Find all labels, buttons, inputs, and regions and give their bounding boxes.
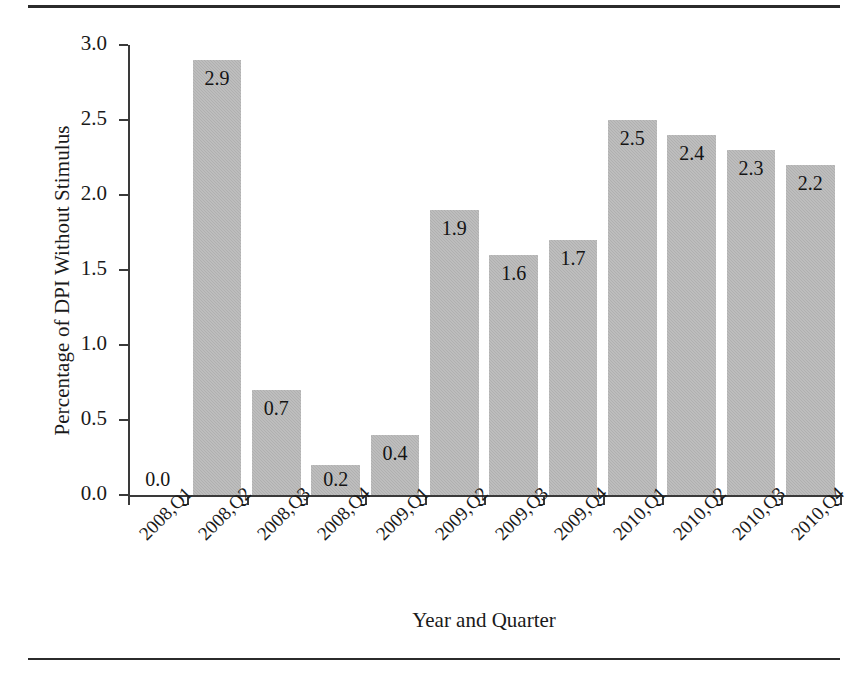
bar-value-label: 1.7 [543,247,602,270]
x-axis-tick-label-slot: 2008,Q3 [247,500,306,590]
bar[interactable] [608,120,657,495]
bar-value-label: 2.4 [662,142,721,165]
figure-page: Percentage of DPI Without Stimulus 0.00.… [0,0,867,679]
x-axis-tick-label-slot: 2009,Q4 [543,500,602,590]
y-axis-tick-label: 0.0 [81,481,107,506]
bar-item[interactable]: 2.9 [187,45,246,495]
bar-item[interactable]: 0.2 [306,45,365,495]
y-axis-title: Percentage of DPI Without Stimulus [50,51,75,511]
bar-item[interactable]: 2.3 [721,45,780,495]
bar[interactable] [549,240,598,495]
x-axis-tick-label-slot: 2008,Q2 [187,500,246,590]
bar-item[interactable]: 0.4 [365,45,424,495]
x-axis-tick-label-slot: 2008,Q4 [306,500,365,590]
bar-value-label: 2.5 [603,127,662,150]
x-axis-tick-label-slot: 2009,Q2 [425,500,484,590]
bar-value-label: 2.2 [781,172,840,195]
bar-item[interactable]: 0.0 [128,45,187,495]
x-axis-tick-labels: 2008,Q12008,Q22008,Q32008,Q42009,Q12009,… [128,500,840,590]
bar-value-label: 2.3 [721,157,780,180]
y-axis-tick-label: 2.5 [81,106,107,131]
y-axis-tick-label: 1.5 [81,256,107,281]
y-axis-tick-label: 3.0 [81,31,107,56]
bar-item[interactable]: 1.9 [425,45,484,495]
x-axis-tick-label-slot: 2008,Q1 [128,500,187,590]
bar-series: 0.02.90.70.20.41.91.61.72.52.42.32.2 [128,45,840,495]
bar-item[interactable]: 2.5 [603,45,662,495]
plot-area: 0.00.51.01.52.02.53.0 0.02.90.70.20.41.9… [128,45,840,495]
bar[interactable] [430,210,479,495]
x-axis-tick-label-slot: 2009,Q3 [484,500,543,590]
bar[interactable] [193,60,242,495]
bar-value-label: 0.7 [247,397,306,420]
bar-item[interactable]: 1.6 [484,45,543,495]
x-axis-tick-label-slot: 2010,Q2 [662,500,721,590]
bar-value-label: 1.9 [425,217,484,240]
bar-item[interactable]: 0.7 [247,45,306,495]
y-axis-tick-label: 0.5 [81,406,107,431]
bar-item[interactable]: 1.7 [543,45,602,495]
bar[interactable] [489,255,538,495]
y-axis-tick: 1.5 [119,269,128,271]
y-axis-tick: 2.5 [119,119,128,121]
bar-value-label: 2.9 [187,67,246,90]
bar-chart-figure: Percentage of DPI Without Stimulus 0.00.… [0,0,867,679]
y-axis-tick: 0.5 [119,419,128,421]
y-axis-tick: 3.0 [119,44,128,46]
bar-value-label: 0.4 [365,442,424,465]
x-axis-tick-label-slot: 2009,Q1 [365,500,424,590]
bar-value-label: 1.6 [484,262,543,285]
y-axis-tick: 1.0 [119,344,128,346]
bar-item[interactable]: 2.2 [781,45,840,495]
x-axis-tick-label-slot: 2010,Q3 [721,500,780,590]
bar[interactable] [727,150,776,495]
y-axis-tick: 0.0 [119,494,128,496]
x-axis-tick-label-slot: 2010,Q1 [603,500,662,590]
x-axis-tick-label-slot: 2010,Q4 [781,500,840,590]
bar[interactable] [786,165,835,495]
bar[interactable] [667,135,716,495]
y-axis-tick-label: 1.0 [81,331,107,356]
y-axis-tick: 2.0 [119,194,128,196]
x-axis-title: Year and Quarter [128,608,840,633]
y-axis-tick-label: 2.0 [81,181,107,206]
bar-item[interactable]: 2.4 [662,45,721,495]
